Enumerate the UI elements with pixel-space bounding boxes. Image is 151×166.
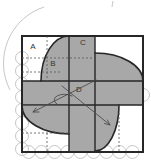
pinwheel-square-diagram: A B C D [0,0,151,166]
region-label-c: C [80,38,86,47]
stray-tick-mark [112,1,113,7]
shaded-regions [22,36,143,152]
shaded-horizontal-strip [22,81,143,105]
region-label-b: B [50,59,55,68]
region-label-d: D [76,85,82,94]
region-label-a: A [30,42,36,51]
figure-canvas: A B C D [0,0,151,166]
